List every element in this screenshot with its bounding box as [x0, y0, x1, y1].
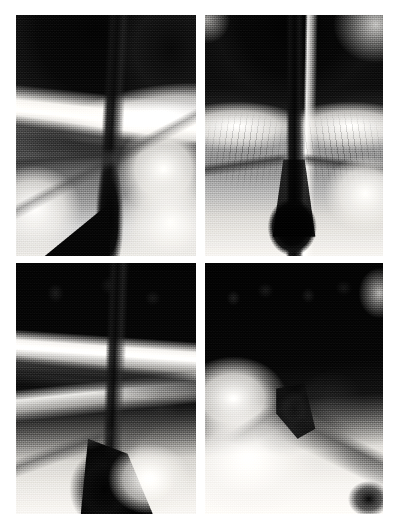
- radiograph-panel-top-left: [16, 15, 196, 256]
- midfield-soft-tissue: [205, 263, 383, 514]
- bright-lobule-lower-right: [205, 15, 383, 256]
- left-mid-fold-detail: [16, 15, 196, 256]
- figure-root: [0, 0, 399, 531]
- radiograph-panel-bottom-right: [205, 263, 383, 514]
- radiograph-panel-top-right: [205, 15, 383, 256]
- radiograph-panel-bottom-left: [16, 263, 196, 514]
- oblique-fold-left: [16, 263, 196, 514]
